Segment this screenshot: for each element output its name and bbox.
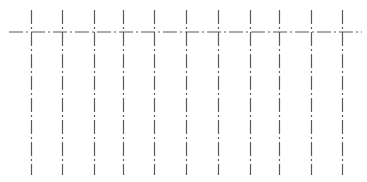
dash-dot-grid-diagram <box>0 0 367 182</box>
vertical-lines-group <box>32 10 343 175</box>
